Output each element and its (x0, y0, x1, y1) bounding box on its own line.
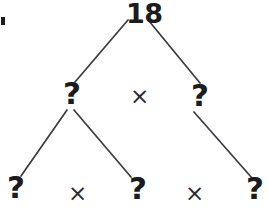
edge-artifact-mark (1, 17, 5, 25)
multiply-operator-bottom-left: × (68, 182, 87, 205)
multiply-operator-middle-row: × (130, 85, 149, 108)
factor-tree-diagram: 18 ? × ? ? × ? × ? (0, 0, 269, 216)
edge-left-to-bottom-1 (21, 110, 67, 176)
factor-node-left-middle[interactable]: ? (63, 78, 81, 109)
edge-left-to-bottom-2 (74, 110, 131, 177)
factor-node-bottom-2[interactable]: ? (129, 173, 147, 204)
factor-node-bottom-3[interactable]: ? (246, 173, 264, 204)
edge-root-to-left (75, 20, 128, 82)
edge-right-to-bottom-3 (194, 112, 252, 178)
multiply-operator-bottom-right: × (185, 182, 204, 205)
factor-node-bottom-1[interactable]: ? (7, 172, 25, 203)
factor-node-right-middle[interactable]: ? (191, 80, 209, 111)
edge-root-to-right (149, 21, 200, 83)
root-node-value: 18 (126, 0, 163, 27)
